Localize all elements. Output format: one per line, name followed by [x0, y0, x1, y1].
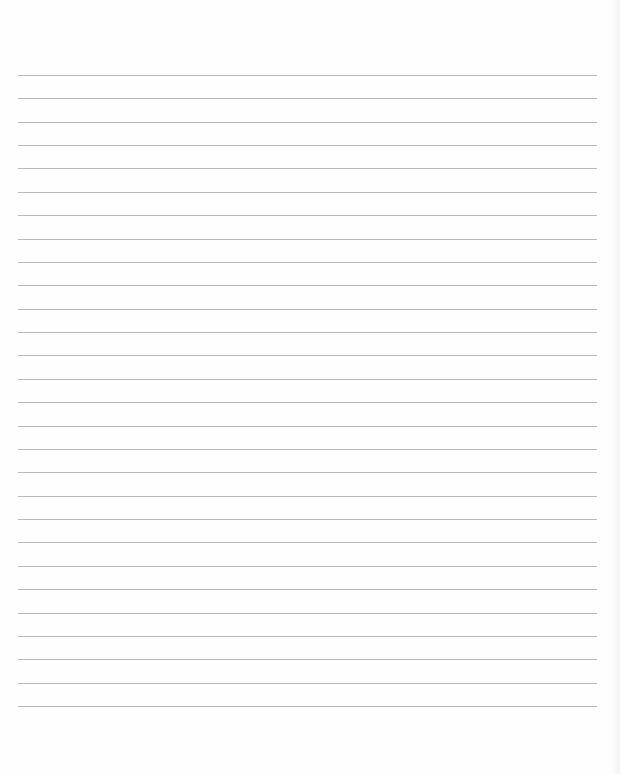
- ruled-line: [18, 659, 597, 660]
- ruled-line: [18, 168, 597, 169]
- ruled-line: [18, 683, 597, 684]
- ruled-line: [18, 285, 597, 286]
- ruled-line: [18, 613, 597, 614]
- ruled-line: [18, 309, 597, 310]
- ruled-line: [18, 262, 597, 263]
- ruled-line: [18, 706, 597, 707]
- page-edge-shadow: [612, 0, 620, 774]
- ruled-line: [18, 426, 597, 427]
- ruled-line: [18, 239, 597, 240]
- ruled-line: [18, 472, 597, 473]
- ruled-line: [18, 566, 597, 567]
- ruled-line: [18, 402, 597, 403]
- ruled-line: [18, 355, 597, 356]
- ruled-line: [18, 122, 597, 123]
- ruled-line: [18, 98, 597, 99]
- ruled-line: [18, 215, 597, 216]
- ruled-line: [18, 496, 597, 497]
- ruled-line: [18, 145, 597, 146]
- ruled-line: [18, 636, 597, 637]
- ruled-line: [18, 192, 597, 193]
- ruled-line: [18, 332, 597, 333]
- ruled-line: [18, 542, 597, 543]
- ruled-line: [18, 519, 597, 520]
- ruled-line: [18, 589, 597, 590]
- lined-paper-page: [0, 0, 620, 774]
- ruled-line: [18, 379, 597, 380]
- ruled-line: [18, 449, 597, 450]
- ruled-line: [18, 75, 597, 76]
